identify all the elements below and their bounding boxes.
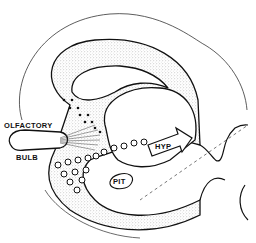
pit-label: PIT: [113, 177, 126, 186]
olfactory-label: OLFACTORY: [4, 121, 53, 130]
brain-diagram: PIT OLFACTORY BULB HYP: [0, 0, 256, 243]
hyp-label: HYP: [155, 142, 171, 151]
cord-edge: [240, 185, 248, 220]
diencephalon: [104, 88, 196, 167]
olfactory-bulb: [9, 130, 67, 150]
bulb-label: BULB: [16, 153, 38, 162]
brainstem: [200, 125, 248, 200]
